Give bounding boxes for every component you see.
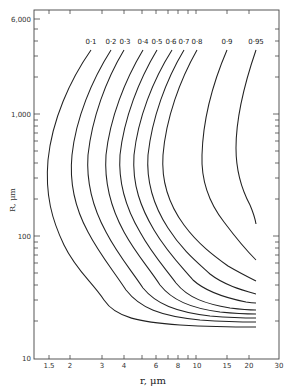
x-tick-4: 4: [122, 362, 127, 370]
x-tick-1.5: 1.5: [43, 362, 54, 370]
y-tick-10: 10: [22, 355, 31, 363]
curve-label-0.9: 0·9: [221, 38, 232, 46]
curve-label-0.4: 0·4: [137, 38, 149, 46]
curve-0.6: [134, 50, 256, 303]
x-tick-30: 30: [275, 362, 284, 370]
chart: 0·1 0·2 0·3 0·4 0·5 0·6 0·7 0·8 0·9 0·95…: [0, 0, 295, 389]
y-axis-ticks: [34, 19, 40, 321]
curve-label-0.95: 0·95: [248, 38, 264, 46]
plot-frame: [34, 10, 279, 359]
curves: [47, 50, 256, 327]
x-axis-title: r, μm: [140, 375, 167, 386]
x-tick-3: 3: [100, 362, 104, 370]
x-axis-ticks: [49, 355, 249, 359]
x-tick-20: 20: [245, 362, 254, 370]
x-tick-8: 8: [176, 362, 180, 370]
curve-labels: 0·1 0·2 0·3 0·4 0·5 0·6 0·7 0·8 0·9 0·95: [85, 38, 263, 46]
curve-label-0.3: 0·3: [119, 38, 130, 46]
y-axis-title: R, μm: [8, 188, 17, 212]
x-tick-2: 2: [68, 362, 72, 370]
curve-0.8: [163, 50, 256, 281]
curve-0.4: [106, 50, 256, 314]
curve-0.1: [47, 50, 256, 327]
x-tick-15: 15: [223, 362, 232, 370]
curve-label-0.1: 0·1: [85, 38, 96, 46]
curve-0.95: [236, 50, 256, 224]
curve-0.5: [120, 50, 256, 310]
curve-label-0.5: 0·5: [151, 38, 162, 46]
x-tick-6: 6: [154, 362, 159, 370]
curve-0.7: [148, 50, 256, 294]
x-tick-labels: 1.5 2 3 4 6 8 10 15 20 30: [43, 362, 283, 370]
x-axis-ticks-top: [49, 10, 249, 14]
x-tick-10: 10: [193, 362, 202, 370]
curve-label-0.2: 0·2: [105, 38, 116, 46]
curve-0.9: [202, 50, 256, 260]
y-axis-ticks-right: [273, 29, 279, 321]
y-tick-6000: 6,000: [11, 16, 31, 24]
curve-label-0.6: 0·6: [165, 38, 177, 46]
y-tick-1000: 1,000: [11, 111, 31, 119]
y-tick-100: 100: [18, 233, 31, 241]
curve-label-0.8: 0·8: [191, 38, 202, 46]
curve-label-0.7: 0·7: [178, 38, 189, 46]
